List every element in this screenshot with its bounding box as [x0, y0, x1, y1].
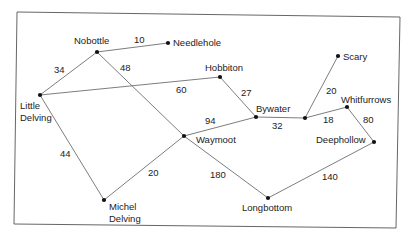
node-label-line: Waymoot — [196, 134, 236, 145]
node-label-waymoot: Waymoot — [196, 134, 236, 145]
edge-waymoot-michel-delving — [104, 136, 184, 200]
node-label-line: Delving — [109, 213, 141, 224]
node-junction-icon — [303, 116, 307, 120]
node-scary-icon — [336, 54, 340, 58]
edge-weight-junction-whitfurrows: 18 — [323, 114, 334, 125]
edge-bywater-junction — [256, 117, 305, 118]
edge-weight-bywater-junction: 32 — [272, 120, 283, 131]
node-label-bywater: Bywater — [256, 103, 290, 114]
weighted-graph-diagram: 103448604427943220188020180140 NobottleN… — [0, 0, 415, 237]
edge-weight-little-delving-michel-delving: 44 — [60, 148, 71, 159]
node-deephollow-icon — [372, 140, 376, 144]
node-label-line: Delving — [20, 112, 52, 123]
edge-weight-nobottle-little-delving: 34 — [54, 64, 65, 75]
edge-weight-nobottle-needlehole: 10 — [134, 34, 145, 45]
node-label-line: Bywater — [256, 103, 290, 114]
node-label-line: Whitfurrows — [341, 94, 391, 105]
edge-weight-longbottom-deephollow: 140 — [322, 171, 338, 182]
node-whitfurrows-icon — [345, 105, 349, 109]
edge-weight-whitfurrows-deephollow: 80 — [363, 114, 374, 125]
node-label-line: Scary — [343, 51, 368, 62]
node-label-line: Hobbiton — [205, 62, 243, 73]
edge-nobottle-waymoot — [97, 52, 184, 136]
node-waymoot-icon — [182, 134, 186, 138]
node-hobbiton-icon — [218, 75, 222, 79]
node-label-line: Needlehole — [173, 37, 221, 48]
node-needlehole-icon — [166, 41, 170, 45]
edge-weight-waymoot-michel-delving: 20 — [148, 167, 159, 178]
labels-layer: NobottleNeedleholeLittleDelvingHobbitonB… — [20, 35, 391, 224]
node-nobottle-icon — [95, 50, 99, 54]
node-label-whitfurrows: Whitfurrows — [341, 94, 391, 105]
node-label-line: Longbottom — [242, 202, 292, 213]
edge-nobottle-little-delving — [40, 52, 97, 95]
node-label-needlehole: Needlehole — [173, 37, 221, 48]
node-label-hobbiton: Hobbiton — [205, 62, 243, 73]
node-label-line: Deephollow — [316, 134, 366, 145]
edge-waymoot-longbottom — [184, 136, 268, 198]
edge-weight-hobbiton-bywater: 27 — [241, 87, 252, 98]
edge-weight-junction-scary: 20 — [326, 85, 337, 96]
node-label-michel-delving: MichelDelving — [109, 201, 141, 224]
node-label-line: Little — [20, 100, 40, 111]
node-label-deephollow: Deephollow — [316, 134, 366, 145]
node-michel-delving-icon — [102, 198, 106, 202]
edge-weight-nobottle-waymoot: 48 — [120, 62, 131, 73]
node-label-scary: Scary — [343, 51, 368, 62]
node-little-delving-icon — [38, 93, 42, 97]
edge-weight-waymoot-bywater: 94 — [205, 115, 216, 126]
node-label-line: Michel — [109, 201, 136, 212]
node-label-little-delving: LittleDelving — [20, 100, 52, 123]
node-label-line: Nobottle — [74, 35, 109, 46]
edge-longbottom-deephollow — [268, 142, 374, 198]
node-longbottom-icon — [266, 196, 270, 200]
edge-little-delving-hobbiton — [40, 77, 220, 95]
edge-weight-little-delving-hobbiton: 60 — [176, 84, 187, 95]
node-bywater-icon — [254, 115, 258, 119]
edge-little-delving-michel-delving — [40, 95, 104, 200]
node-label-nobottle: Nobottle — [74, 35, 109, 46]
edge-weight-waymoot-longbottom: 180 — [210, 169, 226, 180]
node-label-longbottom: Longbottom — [242, 202, 292, 213]
